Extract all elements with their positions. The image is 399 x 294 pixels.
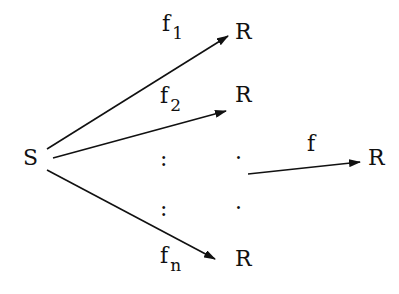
map-subscript: 1 (172, 23, 183, 43)
arrows-layer (0, 0, 399, 294)
target-R2: R (235, 84, 252, 106)
target-R1: R (235, 21, 252, 43)
diagram-canvas: S f1 R f2 R : · : · f R fn R (0, 0, 399, 294)
target-Rn: R (235, 248, 252, 270)
map-name: f (160, 83, 168, 108)
arrow-f (248, 162, 360, 174)
label-f2: f2 (160, 85, 181, 107)
vertical-ellipsis-1: : (160, 148, 167, 170)
arrow-f1 (47, 36, 228, 149)
map-name: f (162, 11, 170, 36)
label-f: f (307, 133, 315, 155)
label-fn: fn (160, 245, 181, 267)
map-subscript: n (170, 255, 181, 275)
map-name: f (160, 243, 168, 268)
dot-ellipsis-1: · (235, 147, 242, 169)
arrow-fn (47, 170, 215, 259)
source-S: S (23, 147, 38, 169)
dot-ellipsis-2: · (235, 197, 242, 219)
arrow-f2 (53, 111, 226, 158)
target-R-composite: R (368, 147, 385, 169)
label-f1: f1 (162, 13, 183, 35)
map-subscript: 2 (170, 95, 181, 115)
vertical-ellipsis-2: : (160, 198, 167, 220)
